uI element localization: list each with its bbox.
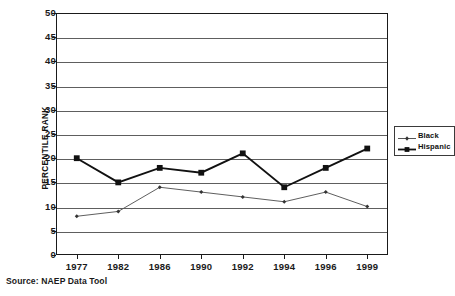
y-tick-label: 40	[16, 56, 56, 66]
x-tick-mark	[326, 255, 327, 259]
y-tick-mark	[52, 255, 56, 256]
series-hispanic	[74, 146, 370, 191]
y-tick-label: 25	[16, 129, 56, 139]
y-tick-label: 20	[16, 153, 56, 163]
x-tick-mark	[367, 255, 368, 259]
legend-marker-black-icon	[397, 130, 417, 141]
data-point-marker	[157, 165, 163, 171]
data-point-marker	[281, 184, 287, 190]
data-series-layer	[56, 13, 388, 255]
data-point-marker	[198, 170, 204, 176]
data-point-marker	[365, 205, 369, 209]
data-point-marker	[116, 209, 120, 213]
chart-legend[interactable]: Black Hispanic	[394, 126, 455, 156]
x-tick-mark	[243, 255, 244, 259]
data-point-marker	[324, 190, 328, 194]
data-point-marker	[240, 150, 246, 156]
data-point-marker	[75, 214, 79, 218]
y-tick-label: 10	[16, 202, 56, 212]
y-tick-label: 30	[16, 105, 56, 115]
data-point-marker	[323, 165, 329, 171]
data-point-marker	[74, 155, 80, 161]
source-note: Source: NAEP Data Tool	[6, 276, 107, 286]
data-point-marker	[158, 185, 162, 189]
x-tick-mark	[160, 255, 161, 259]
x-tick-label: 1999	[342, 262, 392, 272]
data-point-marker	[115, 180, 121, 186]
legend-label-black: Black	[417, 132, 439, 140]
legend-label-hispanic: Hispanic	[417, 143, 450, 151]
x-tick-mark	[77, 255, 78, 259]
legend-marker-hispanic-icon	[397, 141, 417, 152]
series-black	[75, 185, 370, 218]
data-point-marker	[241, 195, 245, 199]
data-point-marker	[282, 200, 286, 204]
x-tick-mark	[284, 255, 285, 259]
data-point-marker	[199, 190, 203, 194]
y-tick-label: 35	[16, 81, 56, 91]
y-tick-label: 50	[16, 8, 56, 18]
legend-item-black[interactable]: Black	[397, 130, 450, 141]
data-point-marker	[364, 146, 370, 152]
x-tick-mark	[201, 255, 202, 259]
y-tick-label: 5	[16, 226, 56, 236]
series-line	[77, 187, 368, 216]
legend-item-hispanic[interactable]: Hispanic	[397, 141, 450, 152]
y-tick-label: 0	[16, 250, 56, 260]
x-tick-mark	[118, 255, 119, 259]
y-tick-label: 45	[16, 32, 56, 42]
y-tick-label: 15	[16, 177, 56, 187]
